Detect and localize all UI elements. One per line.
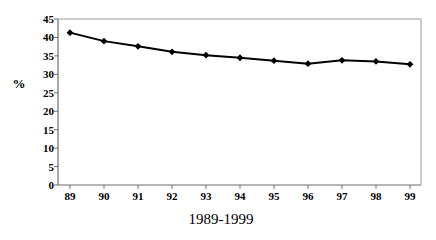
data-point-marker xyxy=(203,52,210,59)
data-point-marker xyxy=(339,57,346,64)
x-axis-title-text: 1989-1999 xyxy=(189,210,254,228)
data-point-marker xyxy=(169,48,176,55)
x-tick-label: 89 xyxy=(57,190,83,202)
x-tick-label: 99 xyxy=(397,190,423,202)
x-axis-title: 1989-1999 xyxy=(0,210,436,228)
data-point-marker xyxy=(407,61,414,68)
x-tick-label: 95 xyxy=(261,190,287,202)
line-chart: % 051015202530354045 8990919293949596979… xyxy=(0,0,436,240)
data-point-marker xyxy=(135,43,142,50)
plot-area xyxy=(0,0,436,240)
x-tick-label: 90 xyxy=(91,190,117,202)
data-point-marker xyxy=(271,57,278,64)
x-tick-label: 96 xyxy=(295,190,321,202)
data-point-marker xyxy=(67,29,74,36)
x-tick-label: 94 xyxy=(227,190,253,202)
data-point-marker xyxy=(373,58,380,65)
axis-frame xyxy=(58,19,421,185)
data-point-marker xyxy=(305,60,312,67)
x-axis-ticks xyxy=(70,185,410,189)
data-point-marker xyxy=(101,38,108,45)
x-tick-label: 92 xyxy=(159,190,185,202)
x-tick-label: 98 xyxy=(363,190,389,202)
data-point-markers xyxy=(67,29,414,68)
data-point-marker xyxy=(237,54,244,61)
x-tick-label: 97 xyxy=(329,190,355,202)
x-tick-label: 93 xyxy=(193,190,219,202)
x-tick-label: 91 xyxy=(125,190,151,202)
